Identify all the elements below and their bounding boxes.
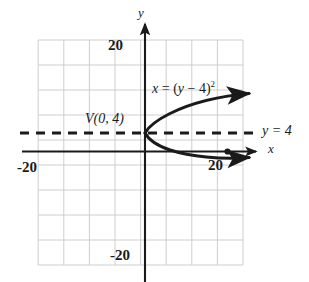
x-tick-label-minus-20: -20 — [17, 160, 37, 175]
parabola-upper-branch — [145, 94, 249, 134]
vertex-annotation: V(0, 4) — [85, 112, 124, 126]
equation-variable: y — [178, 81, 184, 96]
coordinate-plane-svg — [0, 0, 309, 282]
y-tick-label-minus-20: -20 — [110, 248, 130, 263]
asymptote-annotation: y = 4 — [262, 124, 292, 138]
y-axis-label: y — [138, 6, 144, 19]
y-tick-label-20: 20 — [108, 38, 123, 53]
x-intercept-point-marker — [224, 148, 230, 154]
equation-minus: − — [188, 81, 196, 96]
equation-exponent: 2 — [211, 79, 216, 89]
parabola-lower-branch — [145, 133, 249, 158]
x-tick-label-20: 20 — [208, 158, 223, 173]
graph-figure: y x 20 -20 -20 20 V(0, 4) x = (y − 4)2 y… — [0, 0, 309, 282]
x-axis-label: x — [268, 142, 274, 155]
equation-constant: 4 — [199, 81, 206, 96]
equation-equals: = — [162, 81, 170, 96]
equation-annotation: x = (y − 4)2 — [152, 80, 215, 96]
equation-lhs: x — [152, 81, 158, 96]
